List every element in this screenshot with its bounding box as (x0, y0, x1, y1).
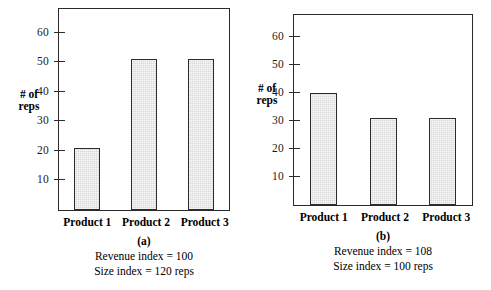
y-axis-tick-b-50: 50 (289, 64, 300, 65)
bar-b-product-3 (429, 118, 456, 205)
y-axis-tick-b-20: 20 (289, 148, 300, 149)
y-axis-tick-a-60: 60 (54, 32, 65, 33)
chart-panel-b: # of reps 102030405060 Product 1Product … (245, 0, 491, 290)
bar-a-product-3 (188, 59, 214, 210)
figure-two-bar-charts: # of reps 102030405060 Product 1Product … (0, 0, 491, 290)
y-axis-tick-a-40: 40 (54, 91, 65, 92)
y-axis-tick-b-40: 40 (289, 92, 300, 93)
caption-letter-a: (a) (42, 234, 246, 249)
y-axis-tick-a-10: 10 (54, 179, 65, 180)
y-axis-tick-a-50: 50 (54, 61, 65, 62)
y-axis-title-line2-a: reps (19, 100, 40, 112)
x-axis-label-a-3: Product 3 (175, 215, 234, 229)
y-axis-tick-label-a-50: 50 (37, 54, 49, 69)
y-axis-title-line1-a: # of (20, 88, 38, 100)
bar-a-product-1 (74, 148, 100, 210)
y-axis-tick-label-b-30: 30 (272, 113, 284, 128)
caption-revenue-index-b: Revenue index = 108 (281, 244, 485, 259)
caption-a: (a) Revenue index = 100 Size index = 120… (42, 234, 246, 279)
caption-size-index-b: Size index = 100 reps (281, 259, 485, 274)
y-axis-tick-label-a-30: 30 (37, 113, 49, 128)
bar-b-product-1 (310, 93, 337, 205)
bar-b-product-2 (370, 118, 397, 205)
y-axis-tick-label-b-50: 50 (272, 57, 284, 72)
y-axis-tick-label-b-10: 10 (272, 169, 284, 184)
y-axis-tick-label-a-40: 40 (37, 84, 49, 99)
plot-area-a: 102030405060 (58, 8, 230, 211)
bar-a-product-2 (131, 59, 157, 210)
x-axis-label-b-2: Product 2 (354, 210, 415, 224)
x-axis-label-a-2: Product 2 (117, 215, 176, 229)
y-axis-tick-label-a-60: 60 (37, 25, 49, 40)
x-axis-labels-a: Product 1Product 2Product 3 (58, 215, 234, 229)
y-axis-tick-b-10: 10 (289, 176, 300, 177)
y-axis-tick-label-a-10: 10 (37, 172, 49, 187)
x-axis-labels-b: Product 1Product 2Product 3 (293, 210, 477, 224)
y-axis-tick-label-a-20: 20 (37, 143, 49, 158)
caption-letter-b: (b) (281, 229, 485, 244)
x-axis-label-b-3: Product 3 (416, 210, 477, 224)
y-axis-tick-label-b-20: 20 (272, 141, 284, 156)
y-axis-tick-b-60: 60 (289, 36, 300, 37)
plot-area-b: 102030405060 (293, 14, 473, 206)
y-axis-tick-label-b-60: 60 (272, 29, 284, 44)
x-axis-label-b-1: Product 1 (293, 210, 354, 224)
caption-b: (b) Revenue index = 108 Size index = 100… (281, 229, 485, 274)
caption-size-index-a: Size index = 120 reps (42, 264, 246, 279)
caption-revenue-index-a: Revenue index = 100 (42, 249, 246, 264)
y-axis-tick-b-30: 30 (289, 120, 300, 121)
y-axis-tick-label-b-40: 40 (272, 85, 284, 100)
y-axis-tick-a-20: 20 (54, 150, 65, 151)
y-axis-tick-a-30: 30 (54, 120, 65, 121)
chart-panel-a: # of reps 102030405060 Product 1Product … (0, 0, 245, 290)
x-axis-label-a-1: Product 1 (58, 215, 117, 229)
